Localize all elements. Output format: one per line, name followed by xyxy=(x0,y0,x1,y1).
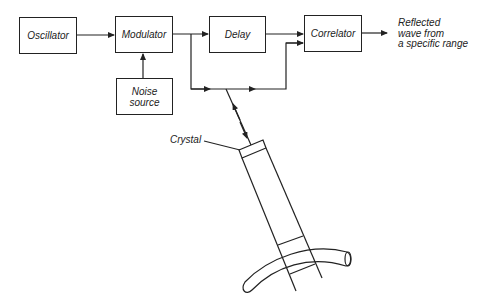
branch-line xyxy=(191,34,206,89)
noise-label-line2: source xyxy=(129,97,159,108)
correlator-label: Correlator xyxy=(311,28,355,39)
output-label-line1: Reflected xyxy=(398,18,468,29)
oscillator-block: Oscillator xyxy=(19,17,77,54)
modulator-label: Modulator xyxy=(122,29,166,40)
modulator-block: Modulator xyxy=(115,16,173,53)
output-label: Reflected wave from a specific range xyxy=(398,18,468,50)
noise-source-block: Noise source xyxy=(116,78,173,115)
probe-left-edge xyxy=(242,158,296,291)
crystal-label: Crystal xyxy=(170,135,201,146)
noise-label-line1: Noise xyxy=(132,86,158,97)
delay-block: Delay xyxy=(209,16,266,53)
diagram-canvas: Oscillator Modulator Noise source Delay … xyxy=(0,0,481,306)
crystal-leader xyxy=(204,141,240,150)
probe-right-edge xyxy=(266,148,322,278)
crystal-element xyxy=(239,140,266,158)
oscillator-label: Oscillator xyxy=(27,30,69,41)
output-label-line3: a specific range xyxy=(398,39,468,50)
correlator-block: Correlator xyxy=(304,15,362,52)
delay-label: Delay xyxy=(225,29,251,40)
